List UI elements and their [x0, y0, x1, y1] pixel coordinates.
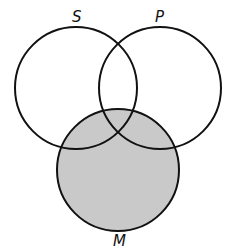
label-s: S: [72, 8, 82, 26]
venn-svg: [0, 0, 231, 252]
label-m: M: [113, 232, 126, 250]
label-p: P: [155, 8, 164, 26]
venn-diagram: S P M: [0, 0, 231, 252]
circle-m: [57, 109, 179, 231]
